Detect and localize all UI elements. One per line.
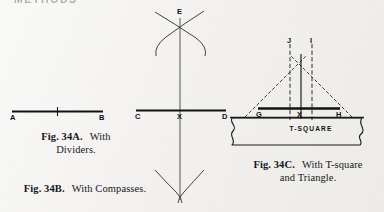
fig-34c-caption: Fig. 34C.With T-square and Triangle. bbox=[232, 158, 384, 184]
point-label-h: H bbox=[336, 111, 342, 119]
fig-34b-arc-lower-right bbox=[178, 170, 204, 203]
fig-34c-description-line1: With T-square bbox=[302, 159, 363, 170]
point-label-x-b: X bbox=[177, 113, 182, 121]
fig-34b-description-line1: With Compasses. bbox=[72, 183, 147, 194]
fig-34a-drawing bbox=[12, 107, 103, 116]
fig-34a-number: Fig. 34A. bbox=[41, 131, 82, 142]
fig-34c-number: Fig. 34C. bbox=[253, 159, 294, 170]
point-label-b: B bbox=[99, 114, 105, 122]
point-label-i: I bbox=[310, 37, 312, 45]
fig-34a-caption: Fig. 34A.With Dividers. bbox=[14, 130, 138, 156]
fig-34b-caption: Fig. 34B.With Compasses. bbox=[2, 182, 168, 195]
point-label-x-c: X bbox=[297, 111, 302, 119]
fig-34a-description-line1: With bbox=[90, 131, 111, 142]
fig-34b-number: Fig. 34B. bbox=[24, 183, 65, 194]
point-label-j: J bbox=[287, 37, 291, 45]
point-label-c: C bbox=[135, 113, 141, 121]
fig-34c-tsquare-blade bbox=[231, 118, 363, 145]
point-label-g: G bbox=[256, 111, 262, 119]
fig-34c-description-line2: and Triangle. bbox=[280, 172, 337, 183]
point-label-d: D bbox=[222, 113, 228, 121]
fig-34a-description-line2: Dividers. bbox=[56, 144, 96, 155]
point-label-e: E bbox=[177, 8, 182, 16]
fig-34b-drawing bbox=[136, 11, 226, 203]
point-label-a: A bbox=[10, 114, 16, 122]
fig-34c-drawing bbox=[230, 44, 364, 145]
